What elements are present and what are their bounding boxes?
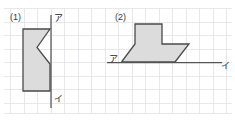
figure-canvas: (1) (2) ア イ ア イ [0, 0, 235, 122]
panel-1-number-label: (1) [10, 13, 21, 22]
panel-1-axis-end-label: イ [54, 95, 63, 104]
panel-2-axis-end-label: イ [221, 62, 230, 71]
panel-1-group [23, 15, 51, 108]
panel-2-number-label: (2) [115, 13, 126, 22]
panel-2-axis-start-label: ア [109, 55, 118, 64]
panel-2-group [107, 24, 222, 63]
panel-1-shape [23, 29, 50, 91]
panel-1-axis-start-label: ア [54, 14, 63, 23]
